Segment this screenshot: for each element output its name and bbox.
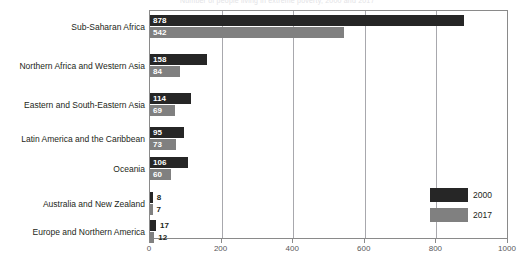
legend-swatch-2017: [430, 208, 468, 222]
x-tick-label: 1000: [498, 244, 516, 253]
x-tick-mark: [221, 239, 222, 243]
category-label: Sub-Saharan Africa: [0, 22, 145, 32]
category-label: Europe and Northern America: [0, 227, 145, 237]
bar-value-label: 60: [150, 169, 162, 180]
bar-value-label: 84: [150, 66, 162, 77]
bar-value-label: 114: [150, 93, 166, 104]
legend-swatch-2000: [430, 188, 468, 202]
category-axis-labels: Sub-Saharan AfricaNorthern Africa and We…: [0, 10, 145, 239]
category-label: Latin America and the Caribbean: [0, 134, 145, 144]
bar: [150, 15, 464, 26]
x-axis: 02004006008001000: [149, 239, 508, 263]
bar: [150, 192, 153, 203]
top-cut-text: Number of people living in extreme pover…: [180, 0, 528, 6]
bar-value-label: 8: [154, 192, 161, 203]
x-tick-mark: [435, 239, 436, 243]
legend-label: 2000: [473, 188, 492, 202]
bar-value-label: 73: [150, 139, 162, 150]
bar-chart: Number of people living in extreme pover…: [0, 0, 528, 266]
bar-value-label: 106: [150, 157, 166, 168]
legend-label: 2017: [473, 208, 492, 222]
x-tick-label: 400: [286, 244, 299, 253]
bar: [150, 27, 344, 38]
x-tick-mark: [507, 239, 508, 243]
bar-value-label: 95: [150, 127, 162, 138]
x-tick-mark: [149, 239, 150, 243]
x-tick-mark: [364, 239, 365, 243]
x-tick-label: 200: [214, 244, 227, 253]
x-tick-label: 800: [429, 244, 442, 253]
category-label: Australia and New Zealand: [0, 199, 145, 209]
bar-value-label: 69: [150, 105, 162, 116]
category-label: Eastern and South-Eastern Asia: [0, 100, 145, 110]
category-label: Northern Africa and Western Asia: [0, 61, 145, 71]
x-tick-mark: [292, 239, 293, 243]
bar-value-label: 158: [150, 54, 166, 65]
bar-value-label: 17: [157, 220, 169, 231]
x-tick-label: 600: [357, 244, 370, 253]
bar: [150, 220, 156, 231]
bar-value-label: 7: [154, 204, 161, 215]
category-label: Oceania: [0, 164, 145, 174]
x-tick-label: 0: [147, 244, 151, 253]
bar-value-label: 878: [150, 15, 166, 26]
legend: 20002017: [430, 188, 502, 228]
bar-value-label: 542: [150, 27, 166, 38]
bar: [150, 204, 153, 215]
